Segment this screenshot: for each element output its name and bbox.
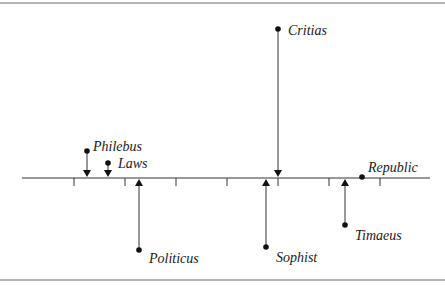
arrow-up-icon: [262, 179, 270, 186]
dialogue-marker-politicus: Politicus: [135, 179, 199, 266]
arrow-up-icon: [341, 179, 349, 186]
dot-marker-icon: [342, 222, 348, 228]
plato-dialogues-diagram: PhilebusLawsPoliticusCritiasSophistTimae…: [0, 0, 445, 287]
dot-marker-icon: [263, 244, 269, 250]
dot-marker-icon: [359, 174, 365, 180]
dialogue-label: Republic: [367, 160, 419, 175]
dialogue-markers: PhilebusLawsPoliticusCritiasSophistTimae…: [83, 23, 419, 266]
dot-marker-icon: [136, 247, 142, 253]
dialogue-marker-critias: Critias: [274, 23, 327, 177]
axis-ticks: [74, 178, 380, 186]
dialogue-marker-sophist: Sophist: [262, 179, 318, 265]
dot-marker-icon: [275, 26, 281, 32]
arrow-down-icon: [274, 170, 282, 177]
arrow-up-icon: [135, 179, 143, 186]
dot-marker-icon: [84, 148, 90, 154]
arrow-down-icon: [83, 170, 91, 177]
dialogue-label: Politicus: [148, 251, 199, 266]
dot-marker-icon: [105, 160, 111, 166]
dialogue-label: Philebus: [92, 139, 143, 154]
dialogue-label: Sophist: [276, 250, 318, 265]
arrow-down-icon: [104, 170, 112, 177]
dialogue-label: Laws: [117, 156, 148, 171]
dialogue-marker-timaeus: Timaeus: [341, 179, 402, 243]
dialogue-label: Timaeus: [355, 228, 402, 243]
dialogue-marker-republic: Republic: [359, 160, 418, 180]
dialogue-label: Critias: [288, 23, 327, 38]
dialogue-marker-laws: Laws: [104, 156, 148, 177]
